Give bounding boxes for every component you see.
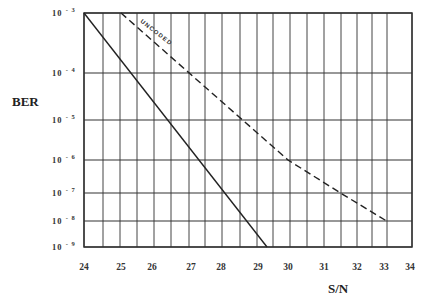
ber-chart: 10 - 310 - 410 - 510 - 610 - 710 - 810 -… xyxy=(0,0,428,302)
x-tick-label: 32 xyxy=(352,262,362,272)
x-tick-label: 34 xyxy=(405,262,415,272)
x-tick-label: 31 xyxy=(319,262,329,272)
x-tick-label: 25 xyxy=(116,262,126,272)
uncoded-label: UNCODED xyxy=(139,18,173,47)
y-axis-title: BER xyxy=(12,94,39,109)
x-tick-label: 26 xyxy=(147,262,157,272)
x-axis-title: S/N xyxy=(328,281,349,296)
y-tick-label: 10 - 9 xyxy=(52,240,76,252)
grid xyxy=(84,13,412,247)
y-tick-label: 10 - 4 xyxy=(52,66,76,78)
plot-frame xyxy=(84,13,412,247)
y-tick-labels: 10 - 310 - 410 - 510 - 610 - 710 - 810 -… xyxy=(52,6,76,252)
x-tick-label: 30 xyxy=(283,262,293,272)
x-tick-label: 24 xyxy=(79,262,89,272)
y-tick-label: 10 - 6 xyxy=(52,153,76,165)
y-tick-label: 10 - 8 xyxy=(52,214,76,226)
uncoded-curve xyxy=(121,13,387,221)
x-tick-labels: 2425262728293031323334 xyxy=(79,262,415,272)
y-tick-label: 10 - 7 xyxy=(52,186,76,198)
x-tick-label: 29 xyxy=(253,262,263,272)
y-tick-label: 10 - 5 xyxy=(52,113,76,125)
x-tick-label: 33 xyxy=(379,262,389,272)
x-tick-label: 27 xyxy=(186,262,196,272)
x-tick-label: 28 xyxy=(216,262,226,272)
y-tick-label: 10 - 3 xyxy=(52,6,76,18)
